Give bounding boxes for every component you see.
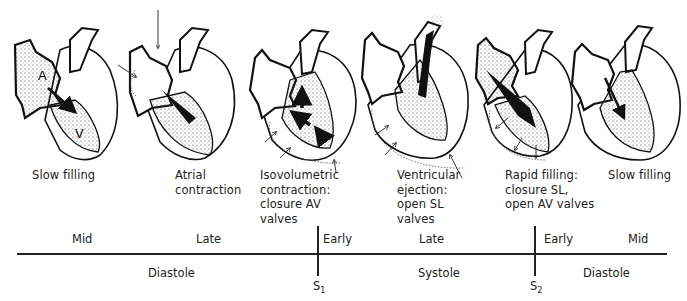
heart-panel-rapid-filling: [476, 30, 572, 160]
heart-panel-slow-filling-1: A V: [15, 28, 117, 160]
label-diastole-2: Diastole: [583, 266, 630, 280]
heart-panel-atrial-contraction: [118, 10, 234, 160]
caption-rapid-filling: Rapid filling: closure SL, open AV valve…: [505, 168, 594, 212]
cardiac-cycle-diagram: A V: [0, 0, 687, 301]
caption-slow-filling-1: Slow filling: [32, 168, 95, 183]
ventricle-label: V: [75, 126, 84, 141]
phase-early-systole: Early: [323, 232, 352, 246]
caption-slow-filling-2: Slow filling: [608, 168, 671, 183]
marker-s2: S2: [530, 279, 542, 295]
caption-atrial-contraction: Atrial contraction: [175, 168, 241, 197]
timeline-axis: [17, 253, 667, 255]
phase-late-systole: Late: [419, 232, 444, 246]
heart-panel-slow-filling-2: [572, 26, 680, 160]
caption-isovolumetric-contraction: Isovolumetric contraction: closure AV va…: [260, 168, 339, 226]
atrium-label: A: [38, 68, 47, 83]
phase-mid-diastole: Mid: [72, 232, 92, 246]
marker-s2-sub: 2: [537, 286, 542, 295]
label-systole: Systole: [418, 266, 460, 280]
phase-mid-diastole-2: Mid: [628, 232, 648, 246]
s2-tick: [534, 226, 536, 276]
s1-tick: [317, 226, 319, 276]
phase-early-diastole: Early: [544, 232, 573, 246]
marker-s1-sub: 1: [320, 286, 325, 295]
phase-late-diastole: Late: [196, 232, 221, 246]
label-diastole-1: Diastole: [148, 266, 195, 280]
marker-s1: S1: [313, 279, 325, 295]
heart-panel-ventricular-ejection: [362, 14, 468, 178]
caption-ventricular-ejection: Ventricular ejection: open SL valves: [397, 168, 460, 226]
heart-panel-isovolumetric-contraction: [250, 30, 356, 172]
